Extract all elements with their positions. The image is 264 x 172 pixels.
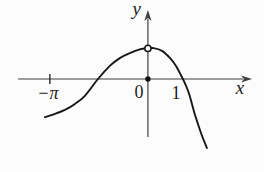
function-graph: −π10xy (0, 0, 264, 172)
function-curve (45, 48, 207, 148)
y-axis-label: y (130, 0, 141, 19)
x-tick-label: −π (37, 83, 59, 103)
origin-label: 0 (134, 82, 143, 102)
x-axis-label: x (235, 77, 245, 98)
origin-point (145, 76, 150, 81)
x-tick-label: 1 (172, 83, 181, 103)
maximum-point (145, 45, 151, 51)
function-graph-figure: −π10xy (0, 0, 264, 172)
